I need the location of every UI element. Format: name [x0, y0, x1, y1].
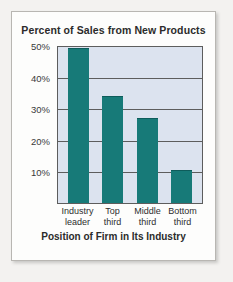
y-axis-tick-label: 10% — [31, 167, 50, 178]
chart-title: Percent of Sales from New Products — [12, 24, 215, 36]
bar[interactable] — [171, 170, 192, 203]
bar-slot — [165, 47, 200, 203]
bar-slot — [96, 47, 131, 203]
y-axis-tick-label: 30% — [31, 104, 50, 115]
bar[interactable] — [137, 118, 158, 203]
x-axis-category-label: Middlethird — [130, 206, 165, 228]
plot-wrapper — [57, 46, 203, 204]
x-axis-category-labels: IndustryleaderTopthirdMiddlethirdBottomt… — [57, 206, 203, 228]
bar[interactable] — [68, 48, 89, 203]
x-axis-category-label: Topthird — [95, 206, 130, 228]
x-axis-title: Position of Firm in Its Industry — [12, 231, 215, 242]
y-axis-labels: 10%20%30%40%50% — [12, 46, 54, 204]
chart-page: Percent of Sales from New Products 10%20… — [0, 0, 233, 282]
x-axis-category-label: Bottomthird — [165, 206, 200, 228]
x-axis-category-label: Industryleader — [60, 206, 95, 228]
bar[interactable] — [102, 96, 123, 203]
y-axis-tick-label: 50% — [31, 41, 50, 52]
bar-series — [58, 47, 202, 203]
bar-slot — [61, 47, 96, 203]
plot-area — [57, 46, 203, 204]
chart-card: Percent of Sales from New Products 10%20… — [11, 11, 216, 261]
y-axis-tick-label: 20% — [31, 135, 50, 146]
y-axis-tick-label: 40% — [31, 72, 50, 83]
bar-slot — [130, 47, 165, 203]
